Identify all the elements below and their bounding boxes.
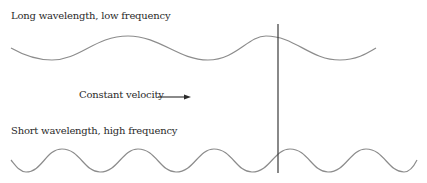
- long-wave: [11, 36, 376, 60]
- arrow-right-icon: [158, 95, 191, 100]
- short-wave: [11, 149, 417, 172]
- wave-diagram: [0, 0, 427, 183]
